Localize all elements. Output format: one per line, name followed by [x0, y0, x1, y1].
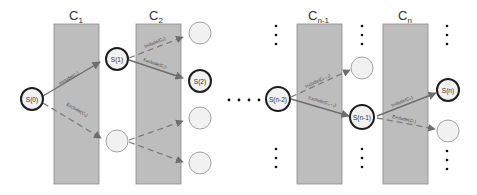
- svg-text:Cn: Cn: [398, 8, 412, 25]
- column-c1: C1: [54, 8, 99, 184]
- node-sn2: S(n-2): [266, 87, 290, 111]
- svg-text:Cn-1: Cn-1: [308, 8, 330, 25]
- column-c1-label: C: [69, 8, 78, 23]
- node-empty-1: [106, 130, 128, 152]
- svg-text:S(n-2): S(n-2): [269, 96, 287, 104]
- svg-text:C2: C2: [149, 8, 163, 25]
- vertical-ellipsis-right-top: [446, 25, 449, 46]
- column-c2-label: C: [149, 8, 158, 23]
- vertical-ellipsis-left-top: [275, 25, 278, 46]
- svg-text:S(n-1): S(n-1): [353, 114, 371, 122]
- node-s0: S(0): [21, 88, 43, 110]
- node-empty-2: [189, 22, 211, 44]
- svg-text:S(2): S(2): [194, 78, 206, 86]
- state-tree-diagram: C1 C2 Cn-1 Cn Include(C₁) Exclude(C₁) In…: [0, 0, 477, 195]
- node-empty-6: [437, 120, 459, 142]
- node-sn1: S(n-1): [350, 105, 374, 129]
- column-cn-1: Cn-1: [297, 8, 342, 184]
- node-s2: S(2): [189, 70, 211, 92]
- node-empty-4: [189, 152, 211, 174]
- column-cn: Cn: [383, 8, 428, 184]
- svg-text:S(n): S(n): [442, 87, 454, 95]
- column-c2: C2: [136, 8, 181, 184]
- vertical-ellipsis-left-bottom: [275, 148, 278, 169]
- column-cn-1-label: C: [308, 8, 317, 23]
- horizontal-ellipsis: [228, 99, 261, 102]
- node-empty-3: [189, 107, 211, 129]
- node-s1: S(1): [106, 48, 128, 70]
- node-empty-5: [351, 57, 373, 79]
- column-cn-label: C: [398, 8, 407, 23]
- svg-text:S(1): S(1): [111, 56, 123, 64]
- vertical-ellipsis-mid-top: [361, 25, 364, 46]
- vertical-ellipsis-right-bottom: [446, 150, 449, 171]
- node-sn: S(n): [437, 79, 459, 101]
- vertical-ellipsis-mid-bottom: [361, 148, 364, 169]
- svg-text:C1: C1: [69, 8, 83, 25]
- svg-text:S(0): S(0): [26, 96, 38, 104]
